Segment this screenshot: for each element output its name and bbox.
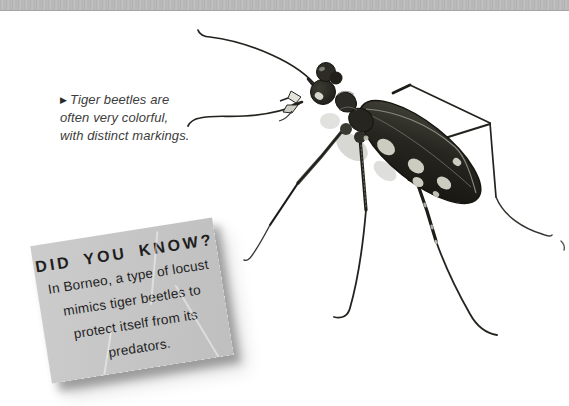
beetle-antennae bbox=[188, 30, 318, 126]
caption-text: Tiger beetles are bbox=[70, 92, 169, 107]
page-top-bar bbox=[0, 0, 569, 11]
beetle-mandible bbox=[283, 105, 298, 113]
beetle-eye-lobe bbox=[330, 72, 343, 85]
caption-line: ▶Tiger beetles are bbox=[60, 91, 200, 109]
did-you-know-note: DID YOU KNOW? In Borneo, a type of locus… bbox=[30, 217, 233, 383]
beetle-mandible-tip bbox=[280, 98, 288, 101]
caption-arrow-icon: ▶ bbox=[60, 95, 67, 105]
caption-line: with distinct markings. bbox=[60, 127, 200, 145]
beetle-head bbox=[311, 80, 336, 105]
tiger-beetle-photo bbox=[180, 25, 569, 375]
beetle-mandible bbox=[288, 91, 301, 103]
beetle-antenna-upper bbox=[198, 30, 318, 88]
leg-tip-fragment bbox=[561, 241, 564, 250]
beetle-antenna-lower bbox=[188, 104, 299, 126]
book-page: ▶Tiger beetles are often very colorful, … bbox=[0, 0, 569, 406]
photo-caption: ▶Tiger beetles are often very colorful, … bbox=[60, 91, 200, 145]
caption-line: often very colorful, bbox=[60, 109, 200, 127]
